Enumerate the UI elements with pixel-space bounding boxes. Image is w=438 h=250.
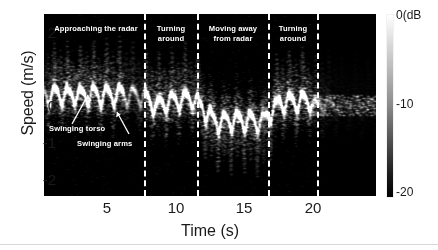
- region-label-approaching: Approaching the radar: [50, 24, 142, 34]
- y-tick-label-neg2: -2: [34, 171, 56, 188]
- segment-divider-2: [197, 14, 199, 196]
- y-tick-label-1: 1: [34, 61, 56, 78]
- region-label-turning-around-1: Turning around: [147, 24, 195, 44]
- x-axis-label: Time (s): [44, 222, 376, 240]
- callout-label-swinging-torso: Swinging torso: [49, 124, 105, 133]
- x-tick-label-10: 10: [161, 199, 191, 216]
- region-label-turning-around-2: Turning around: [270, 24, 316, 44]
- y-tick-label-2: 2: [34, 24, 56, 41]
- segment-divider-1: [144, 14, 146, 196]
- colorbar-label-top: 0(dB: [396, 8, 421, 22]
- y-tick-label-neg1: -1: [34, 134, 56, 151]
- spectrogram-figure: Approaching the radar Turning around Mov…: [0, 0, 438, 250]
- colorbar: [386, 14, 394, 198]
- colorbar-label-mid: -10: [396, 97, 413, 111]
- x-tick-label-15: 15: [229, 199, 259, 216]
- y-tick-label-0: 0: [34, 97, 56, 114]
- figure-bottom-rule: [0, 244, 438, 245]
- segment-divider-4: [317, 14, 319, 196]
- colorbar-label-bottom: -20: [396, 185, 413, 199]
- region-label-moving-away: Moving away from radar: [200, 24, 266, 44]
- plot-area: Approaching the radar Turning around Mov…: [44, 14, 376, 196]
- x-tick-label-20: 20: [298, 199, 328, 216]
- x-tick-label-5: 5: [92, 199, 122, 216]
- callout-label-swinging-arms: Swinging arms: [77, 139, 132, 148]
